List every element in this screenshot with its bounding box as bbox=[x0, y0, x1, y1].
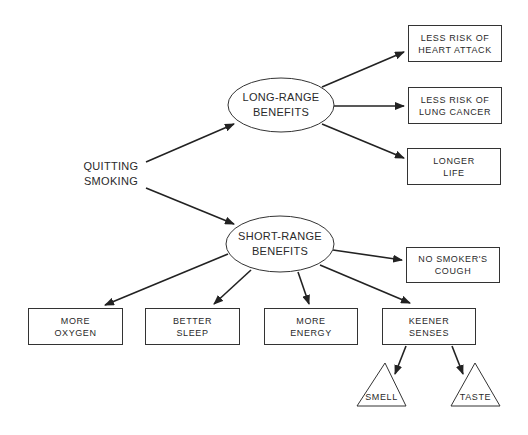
long-range-line2: BENEFITS bbox=[228, 105, 334, 120]
box-more-energy: MORE ENERGY bbox=[264, 308, 358, 345]
smell-label: SMELL bbox=[357, 391, 406, 403]
heart-attack-line2: HEART ATTACK bbox=[418, 44, 492, 56]
root-node-quitting-smoking: QUITTING SMOKING bbox=[76, 159, 146, 189]
more-oxygen-line1: MORE bbox=[54, 315, 96, 327]
arrow-to-heart-attack bbox=[322, 52, 404, 87]
keener-senses-line2: SENSES bbox=[409, 327, 450, 339]
heart-attack-line1: LESS RISK OF bbox=[418, 32, 492, 44]
arrow-to-better-sleep bbox=[214, 270, 251, 304]
arrow-to-smokers-cough bbox=[333, 250, 402, 260]
arrow-to-keener-senses bbox=[320, 265, 410, 303]
arrow-to-smell bbox=[395, 346, 406, 374]
root-line2: SMOKING bbox=[76, 174, 146, 189]
arrow-root-to-short-range bbox=[146, 188, 234, 224]
arrow-to-more-energy bbox=[298, 272, 309, 304]
smokers-cough-line2: COUGH bbox=[418, 265, 487, 277]
root-line1: QUITTING bbox=[76, 159, 146, 174]
box-no-smokers-cough: NO SMOKER'S COUGH bbox=[406, 247, 500, 283]
longer-life-line2: LIFE bbox=[433, 167, 475, 179]
better-sleep-line1: BETTER bbox=[173, 315, 212, 327]
long-range-line1: LONG-RANGE bbox=[228, 90, 334, 105]
arrow-to-more-oxygen bbox=[105, 254, 228, 305]
box-longer-life: LONGER LIFE bbox=[407, 148, 501, 185]
arrow-root-to-long-range bbox=[146, 124, 234, 162]
keener-senses-line1: KEENER bbox=[409, 315, 450, 327]
box-keener-senses: KEENER SENSES bbox=[382, 308, 476, 345]
box-better-sleep: BETTER SLEEP bbox=[145, 308, 240, 345]
short-range-line1: SHORT-RANGE bbox=[226, 229, 334, 244]
taste-label: TASTE bbox=[451, 391, 500, 403]
arrow-to-longer-life bbox=[322, 124, 404, 158]
diagram-canvas bbox=[0, 0, 528, 435]
smokers-cough-line1: NO SMOKER'S bbox=[418, 253, 487, 265]
lung-cancer-line1: LESS RISK OF bbox=[419, 94, 491, 106]
better-sleep-line2: SLEEP bbox=[173, 327, 212, 339]
more-energy-line2: ENERGY bbox=[290, 327, 332, 339]
lung-cancer-line2: LUNG CANCER bbox=[419, 106, 491, 118]
arrow-to-taste bbox=[452, 346, 463, 374]
more-oxygen-line2: OXYGEN bbox=[54, 327, 96, 339]
short-range-benefits-node: SHORT-RANGE BENEFITS bbox=[226, 229, 334, 259]
box-more-oxygen: MORE OXYGEN bbox=[28, 308, 123, 345]
short-range-line2: BENEFITS bbox=[226, 244, 334, 259]
long-range-benefits-node: LONG-RANGE BENEFITS bbox=[228, 90, 334, 120]
more-energy-line1: MORE bbox=[290, 315, 332, 327]
box-lung-cancer: LESS RISK OF LUNG CANCER bbox=[408, 87, 502, 124]
box-heart-attack: LESS RISK OF HEART ATTACK bbox=[408, 25, 502, 62]
longer-life-line1: LONGER bbox=[433, 155, 475, 167]
